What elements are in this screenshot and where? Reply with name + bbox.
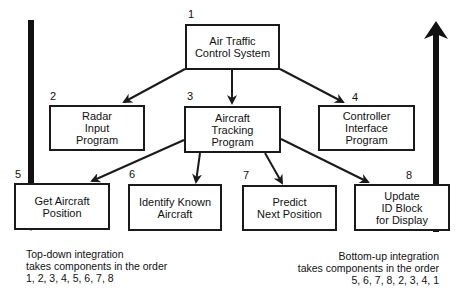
node-label: for Display [376,214,428,226]
node-number-4: 4 [352,91,358,103]
node-number-5: 5 [15,168,21,180]
node-identify-known-aircraft: Identify KnownAircraft [128,184,222,231]
node-label: Program [211,136,253,148]
node-label: Predict [257,196,322,208]
node-label: Get Aircraft [34,195,89,207]
node-radar-input-program: RadarInputProgram [49,105,145,151]
node-number-8: 8 [406,169,412,181]
edge-1-2 [124,69,185,102]
node-controller-interface-program: ControllerInterfaceProgram [318,105,415,151]
node-update-id-block-for-display: UpdateID Blockfor Display [354,184,450,231]
node-label: Program [76,134,118,146]
node-label: Aircraft [139,208,211,220]
node-aircraft-tracking-program: AircraftTrackingProgram [184,106,281,153]
node-label: Tracking [211,124,253,136]
node-label: Input [76,122,118,134]
node-get-aircraft-position: Get AircraftPosition [14,183,110,230]
node-label: ID Block [376,202,428,214]
node-number-1: 1 [188,8,194,20]
node-air-traffic-control-system: Air TrafficControl System [185,24,280,70]
caption-line: Top-down integration [26,248,167,260]
node-number-7: 7 [243,169,249,181]
node-label: Program [343,134,391,146]
caption-line: Bottom-up integration [298,250,439,262]
node-number-2: 2 [50,90,56,102]
edge-3-6 [196,153,200,182]
edge-3-7 [265,153,282,183]
top-down-caption: Top-down integration takes components in… [26,248,167,284]
node-label: Position [34,207,89,219]
node-label: Next Position [257,208,322,220]
node-label: Radar [76,110,118,122]
node-label: Control System [195,47,270,59]
node-predict-next-position: PredictNext Position [242,185,337,231]
node-label: Interface [343,122,391,134]
caption-line: takes components in the order [26,260,167,272]
node-number-6: 6 [129,168,135,180]
node-number-3: 3 [187,90,193,102]
node-label: Update [376,190,428,202]
caption-line: 5, 6, 7, 8, 2, 3, 4, 1 [298,274,439,286]
caption-line: 1, 2, 3, 4, 5, 6, 7, 8 [26,272,167,284]
node-label: Air Traffic [195,35,270,47]
node-label: Controller [343,110,391,122]
node-label: Aircraft [211,112,253,124]
node-label: Identify Known [139,196,211,208]
bottom-up-caption: Bottom-up integration takes components i… [298,250,439,286]
caption-line: takes components in the order [298,262,439,274]
edge-1-4 [280,69,343,102]
